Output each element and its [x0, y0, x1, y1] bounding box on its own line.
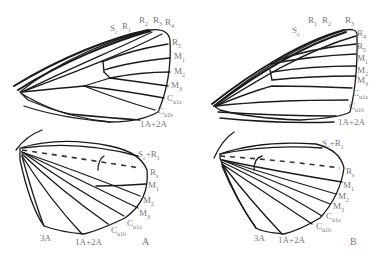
wing-venation-diagram [0, 0, 380, 258]
forewing-a [14, 30, 170, 122]
vein-label: Sc+R1 [322, 139, 344, 150]
vein-label: R2 [139, 16, 148, 27]
vein-label: R3 [153, 16, 162, 27]
vein-label: Cu1a [167, 94, 182, 105]
vein-label: 3A [254, 234, 265, 243]
vein-label: M1 [174, 52, 185, 63]
panel-label-b: B [350, 236, 357, 247]
forewing-b [212, 30, 357, 123]
vein-label: R2 [322, 16, 331, 27]
vein-label: Cu1a [127, 219, 142, 230]
vein-label: M2 [174, 67, 185, 78]
vein-label: M1 [357, 54, 368, 65]
vein-label: R4 [165, 18, 174, 29]
panel-label-a: A [142, 236, 149, 247]
vein-label: Cu1b [349, 102, 364, 113]
vein-label: 1A+2A [338, 118, 365, 127]
vein-label: R5 [357, 42, 366, 53]
vein-label: Rs [150, 168, 158, 179]
vein-label: 1A+2A [75, 238, 102, 247]
vein-label: Cu1b [158, 107, 173, 118]
vein-label: Sc [292, 26, 300, 37]
vein-label: Rs [346, 167, 354, 178]
vein-label: R5 [172, 38, 181, 49]
vein-label: 3A [40, 234, 51, 243]
vein-label: R3 [345, 16, 354, 27]
vein-label: M3 [171, 81, 182, 92]
vein-label: 1A+2A [140, 120, 167, 129]
vein-label: R1 [308, 16, 317, 27]
vein-label: Sc [110, 24, 118, 35]
vein-label: Cu1a [353, 89, 368, 100]
vein-label: R4 [357, 29, 366, 40]
vein-label: 1A+2A [278, 236, 305, 245]
vein-label: M1 [148, 181, 159, 192]
vein-label: M2 [143, 196, 154, 207]
vein-label: Sc+R1 [138, 150, 160, 161]
vein-label: M3 [357, 76, 368, 87]
vein-label: Cu1b [111, 226, 126, 237]
vein-label: Cu1b [316, 222, 331, 233]
vein-label: R1 [122, 22, 131, 33]
